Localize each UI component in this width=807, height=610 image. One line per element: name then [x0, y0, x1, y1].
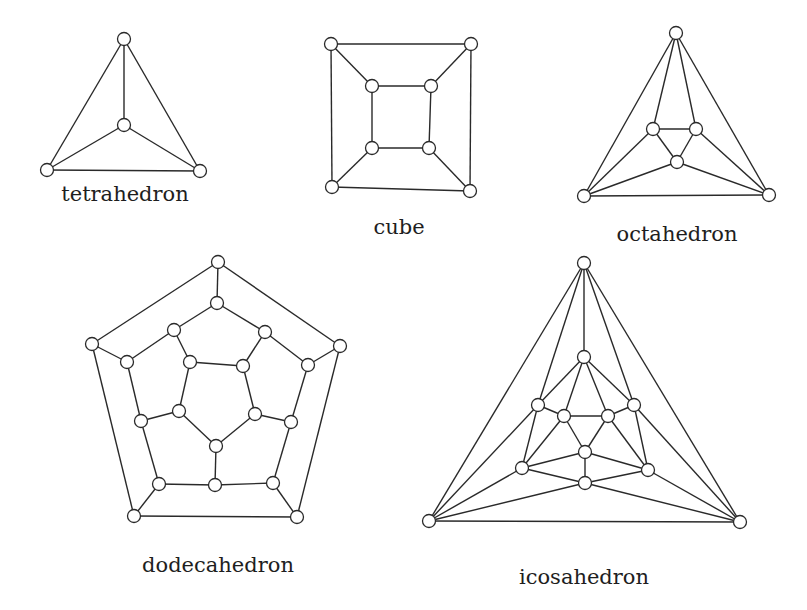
dodecahedron-vertex — [267, 477, 280, 490]
octahedron-vertex — [670, 27, 683, 40]
icosahedron-vertex — [628, 399, 641, 412]
dodecahedron-vertex — [128, 510, 141, 523]
icosahedron-edge — [429, 263, 584, 521]
icosahedron-vertex — [579, 477, 592, 490]
dodecahedron-edge — [179, 411, 216, 446]
dodecahedron-edge — [179, 362, 190, 411]
icosahedron-edge — [429, 521, 740, 522]
icosahedron-vertex — [734, 516, 747, 529]
cube-graph — [325, 38, 478, 198]
octahedron-vertex — [578, 190, 591, 203]
dodecahedron-edge — [297, 346, 340, 517]
icosahedron-edge — [585, 470, 648, 483]
dodecahedron-vertex — [210, 440, 223, 453]
dodecahedron-edge — [265, 332, 308, 365]
dodecahedron-edge — [92, 344, 134, 516]
cube-edge — [331, 44, 372, 86]
tetrahedron-label: tetrahedron — [61, 182, 188, 206]
icosahedron-edge — [538, 357, 584, 405]
dodecahedron-edge — [217, 303, 265, 332]
dodecahedron-vertex — [249, 408, 262, 421]
dodecahedron-edge — [159, 484, 215, 485]
octahedron-edge — [653, 33, 676, 129]
dodecahedron-label: dodecahedron — [142, 553, 294, 577]
icosahedron-edge — [585, 483, 740, 522]
dodecahedron-edge — [190, 362, 243, 366]
cube-vertex — [326, 181, 339, 194]
icosahedron-vertex — [642, 464, 655, 477]
icosahedron-edge — [585, 452, 648, 470]
octahedron-edge — [584, 162, 677, 196]
dodecahedron-edge — [141, 421, 159, 484]
dodecahedron-vertex — [86, 338, 99, 351]
cube-edge — [332, 187, 470, 191]
cube-edge — [332, 148, 372, 187]
tetrahedron-vertex — [194, 165, 207, 178]
icosahedron-edge — [648, 470, 740, 522]
dodecahedron-edge — [127, 330, 174, 362]
cube-vertex — [423, 142, 436, 155]
dodecahedron-edge — [174, 303, 217, 330]
dodecahedron-vertex — [168, 324, 181, 337]
dodecahedron-edge — [273, 422, 291, 483]
cube-vertex — [425, 80, 438, 93]
cube-vertex — [465, 38, 478, 51]
dodecahedron-edge — [291, 365, 308, 422]
icosahedron-edge — [429, 483, 585, 521]
dodecahedron-vertex — [184, 356, 197, 369]
octahedron-edge — [584, 129, 653, 196]
octahedron-edge — [584, 195, 769, 196]
cube-edge — [331, 44, 332, 187]
octahedron-edge — [584, 33, 676, 196]
tetrahedron-edge — [47, 125, 124, 170]
octahedron-vertex — [647, 123, 660, 136]
dodecahedron-vertex — [121, 356, 134, 369]
icosahedron-edge — [564, 357, 584, 416]
dodecahedron-vertex — [212, 256, 225, 269]
dodecahedron-edge — [127, 362, 141, 421]
icosahedron-edge — [522, 452, 585, 468]
icosahedron-edge — [522, 468, 585, 483]
cube-vertex — [366, 142, 379, 155]
cube-edge — [431, 44, 471, 86]
tetrahedron-edge — [47, 39, 124, 170]
icosahedron-edge — [584, 357, 634, 405]
dodecahedron-vertex — [211, 297, 224, 310]
tetrahedron-vertex — [118, 119, 131, 132]
dodecahedron-vertex — [173, 405, 186, 418]
polyhedra-graph-canvas — [0, 0, 807, 610]
icosahedron-edge — [584, 357, 608, 416]
octahedron-edge — [676, 33, 696, 129]
dodecahedron-vertex — [153, 478, 166, 491]
cube-edge — [470, 44, 471, 191]
dodecahedron-vertex — [285, 416, 298, 429]
icosahedron-edge — [538, 263, 584, 405]
icosahedron-vertex — [423, 515, 436, 528]
dodecahedron-vertex — [135, 415, 148, 428]
dodecahedron-vertex — [209, 479, 222, 492]
cube-edge — [429, 148, 470, 191]
dodecahedron-edge — [218, 262, 340, 346]
dodecahedron-vertex — [302, 359, 315, 372]
tetrahedron-vertex — [41, 164, 54, 177]
icosahedron-vertex — [578, 351, 591, 364]
octahedron-edge — [696, 129, 769, 195]
cube-vertex — [325, 38, 338, 51]
tetrahedron-edge — [124, 125, 200, 171]
tetrahedron-edge — [124, 39, 200, 171]
tetrahedron-edge — [47, 170, 200, 171]
octahedron-vertex — [690, 123, 703, 136]
dodecahedron-edge — [216, 414, 255, 446]
octahedron-edge — [676, 33, 769, 195]
tetrahedron-graph — [41, 33, 207, 178]
icosahedron-label: icosahedron — [519, 565, 649, 589]
dodecahedron-edge — [92, 262, 218, 344]
dodecahedron-vertex — [334, 340, 347, 353]
icosahedron-edge — [584, 263, 740, 522]
icosahedron-vertex — [516, 462, 529, 475]
icosahedron-vertex — [578, 257, 591, 270]
octahedron-edge — [677, 162, 769, 195]
icosahedron-vertex — [602, 410, 615, 423]
cube-vertex — [366, 80, 379, 93]
icosahedron-vertex — [558, 410, 571, 423]
